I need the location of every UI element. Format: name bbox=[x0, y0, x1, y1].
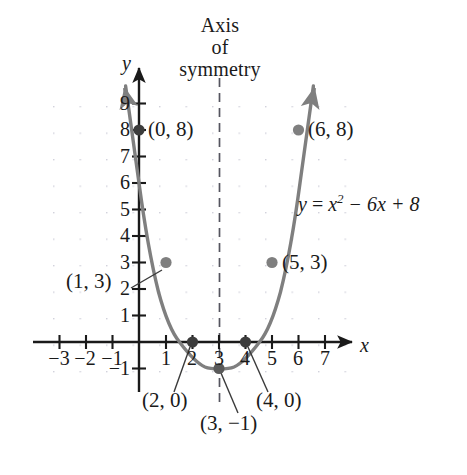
point-label-0-8: (0, 8) bbox=[148, 117, 194, 142]
marker-5-3 bbox=[266, 257, 277, 268]
point-label-5-3: (5, 3) bbox=[282, 250, 328, 275]
point-label-4-0: (4, 0) bbox=[256, 388, 302, 413]
ytick-8: 8 bbox=[104, 118, 130, 141]
point-label-1-3: (1, 3) bbox=[66, 269, 112, 294]
point-label-6-8: (6, 8) bbox=[308, 117, 354, 142]
xtick-6: 6 bbox=[285, 347, 311, 370]
title-line-2: of bbox=[160, 36, 280, 58]
xtick-2: 2 bbox=[179, 347, 205, 370]
equation-rest: − 6x + 8 bbox=[349, 193, 420, 215]
xtick-5: 5 bbox=[259, 347, 285, 370]
equation-lhs: y bbox=[298, 193, 307, 215]
ytick-7: 7 bbox=[104, 145, 130, 168]
title-line-3: symmetry bbox=[160, 58, 280, 80]
ytick-1: 1 bbox=[104, 304, 130, 327]
xtick--2: −2 bbox=[72, 347, 98, 370]
figure-canvas: Axis of symmetry y x −3 −2 −1 1 2 3 4 5 … bbox=[0, 0, 467, 475]
marker-4-0 bbox=[240, 336, 251, 347]
xtick--3: −3 bbox=[46, 347, 72, 370]
title-line-1: Axis bbox=[160, 14, 280, 36]
equation-equals: = bbox=[312, 193, 323, 215]
marker-2-0 bbox=[187, 336, 198, 347]
point-label-2-0: (2, 0) bbox=[142, 388, 188, 413]
marker-1-3 bbox=[160, 257, 171, 268]
equation-annotation: y = x2 − 6x + 8 bbox=[298, 191, 419, 216]
xtick-1: 1 bbox=[153, 347, 179, 370]
y-axis-label: y bbox=[122, 52, 131, 75]
ytick-5: 5 bbox=[104, 198, 130, 221]
x-axis-label: x bbox=[360, 334, 369, 357]
ytick--1: −1 bbox=[104, 357, 130, 380]
xtick-7: 7 bbox=[312, 347, 338, 370]
ytick-6: 6 bbox=[104, 171, 130, 194]
equation-term1: x bbox=[328, 193, 337, 215]
xtick-4: 4 bbox=[232, 347, 258, 370]
xtick-3: 3 bbox=[206, 347, 232, 370]
ytick-4: 4 bbox=[104, 224, 130, 247]
marker-0-8 bbox=[133, 124, 144, 135]
marker-6-8 bbox=[293, 124, 304, 135]
point-label-vertex: (3, −1) bbox=[200, 411, 257, 436]
equation-exponent: 2 bbox=[337, 191, 344, 206]
axis-of-symmetry-title: Axis of symmetry bbox=[160, 14, 280, 80]
ytick-9: 9 bbox=[104, 92, 130, 115]
